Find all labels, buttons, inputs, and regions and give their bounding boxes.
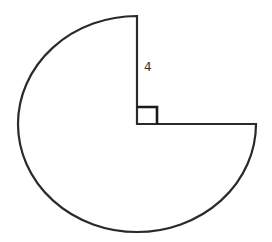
right-angle-marker — [137, 107, 157, 124]
sector-outline — [18, 16, 256, 232]
radius-label: 4 — [144, 60, 152, 74]
three-quarter-circle-diagram: 4 — [0, 0, 272, 242]
